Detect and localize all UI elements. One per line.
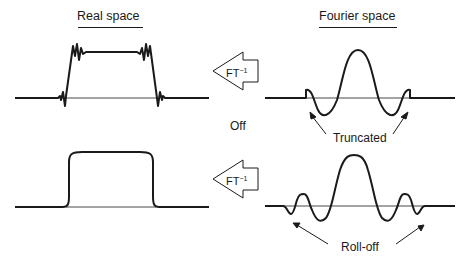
ft-superscript: −1 <box>239 67 247 74</box>
off-label: Off <box>230 119 246 133</box>
ft-text: FT <box>226 67 239 79</box>
inverse-ft-label-bottom: FT−1 <box>226 173 247 187</box>
real-space-truncated-curve <box>15 44 209 106</box>
fourier-space-rolloff-curve <box>265 155 455 221</box>
ft-text: FT <box>226 175 239 187</box>
fourier-space-header: Fourier space <box>319 9 395 23</box>
ft-superscript: −1 <box>239 175 247 182</box>
fourier-space-header-underline <box>319 27 397 28</box>
fourier-space-truncated-curve <box>265 50 455 115</box>
rolloff-label: Roll-off <box>341 240 379 254</box>
real-space-header-underline <box>78 27 143 28</box>
inverse-ft-label-top: FT−1 <box>226 65 247 79</box>
real-space-rolloff-curve <box>15 152 209 207</box>
real-space-header: Real space <box>77 9 140 23</box>
truncated-label: Truncated <box>333 131 387 145</box>
